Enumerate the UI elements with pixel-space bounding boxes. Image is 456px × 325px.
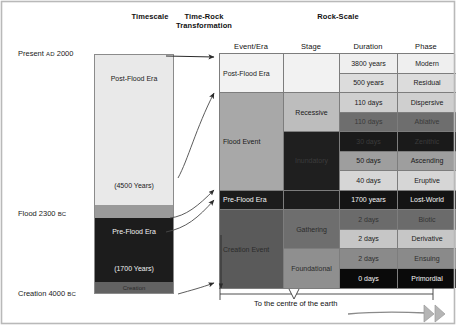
phase-cell-11: Primordial [398, 269, 456, 289]
duration-cell-11-label: 0 days [358, 274, 379, 283]
duration-cell-8: 2 days [340, 210, 398, 230]
label-flood-2300-bc: Flood 2300 BC [18, 209, 66, 218]
event-cell-post-flood-era-label: Post-Flood Era [223, 69, 270, 78]
event-cell-pre-flood-era: Pre-Flood Era [220, 191, 284, 211]
phase-cell-8: Biotic [398, 210, 456, 230]
stage-cell-recessive: Recessive [284, 93, 340, 132]
stage-cell-inundatory: Inundatory [284, 132, 340, 191]
phase-cell-9: Derivative [398, 230, 456, 250]
stage-cell-gathering-label: Gathering [296, 225, 327, 234]
table-header-event-era: Event/Era [219, 42, 283, 51]
phase-cell-6-label: Eruptive [414, 176, 440, 185]
event-cell-creation-event-label: Creation Event [223, 245, 269, 254]
phase-cell-8-label: Biotic [418, 215, 435, 224]
transform-arrow-2 [178, 93, 214, 178]
table-header-phase: Phase [397, 42, 455, 51]
stage-cell-gathering: Gathering [284, 210, 340, 249]
footer-to-centre-of-earth: To the centre of the earth [254, 299, 337, 308]
duration-cell-10: 2 days [340, 249, 398, 269]
duration-cell-1-label: 500 years [353, 78, 384, 87]
stage-cell-inundatory-label: Inundatory [295, 156, 328, 165]
chevron-right-icon-1 [424, 305, 434, 322]
event-cell-pre-flood-era-label: Pre-Flood Era [223, 195, 267, 204]
header-time-rock-line1: Time-Rock [184, 12, 223, 21]
phase-cell-10: Ensuing [398, 249, 456, 269]
phase-cell-3: Ablative [398, 113, 456, 133]
duration-cell-5: 50 days [340, 152, 398, 172]
duration-cell-4: 30 days [340, 132, 398, 152]
phase-cell-6: Eruptive [398, 171, 456, 191]
duration-cell-11: 0 days [340, 269, 398, 289]
timescale-creation-label: Creation [95, 283, 173, 294]
duration-cell-5-label: 50 days [356, 156, 381, 165]
phase-cell-2: Dispersive [398, 93, 456, 113]
phase-cell-3-label: Ablative [415, 117, 440, 126]
timescale-post-flood-duration: (4500 Years) [95, 180, 173, 191]
label-flood-text: Flood 2300 [18, 209, 58, 218]
label-creation-text: Creation 4000 [18, 289, 67, 298]
duration-cell-3-label: 110 days [355, 117, 383, 126]
stage-cell-blank [284, 54, 340, 93]
transform-arrow-3 [170, 190, 214, 218]
header-time-rock-transformation: Time-Rock Transformation [158, 12, 250, 30]
stage-cell-blank [284, 191, 340, 211]
phase-cell-1: Residual [398, 74, 456, 94]
transform-arrow-5 [178, 283, 214, 294]
label-flood-era: BC [58, 211, 67, 217]
phase-cell-9-label: Derivative [411, 234, 442, 243]
phase-cell-5-label: Ascending [411, 156, 444, 165]
stage-cell-recessive-label: Recessive [295, 108, 327, 117]
stage-cell-foundational-label: Foundational [291, 264, 331, 273]
duration-cell-3: 110 days [340, 113, 398, 133]
phase-cell-1-label: Residual [413, 78, 440, 87]
phase-cell-11-label: Primordial [411, 274, 443, 283]
duration-cell-2: 110 days [340, 93, 398, 113]
duration-cell-0: 3800 years [340, 54, 398, 74]
timescale-pre-flood-duration: (1700 Years) [95, 263, 173, 274]
duration-cell-7: 1700 years [340, 191, 398, 211]
diagram-canvas: Timescale Time-Rock Transformation Rock-… [0, 0, 456, 325]
header-rock-scale: Rock-Scale [290, 12, 386, 21]
event-cell-creation-event: Creation Event [220, 210, 284, 288]
table-header-stage: Stage [283, 42, 339, 51]
foundational-pointer [289, 289, 299, 299]
duration-cell-1: 500 years [340, 74, 398, 94]
duration-cell-2-label: 110 days [355, 98, 383, 107]
phase-cell-7-label: Lost-World [410, 195, 444, 204]
timescale-post-flood-label: Post-Flood Era [95, 73, 173, 84]
event-cell-post-flood-era: Post-Flood Era [220, 54, 284, 93]
timescale-segment-flood-band [95, 205, 173, 218]
duration-cell-4-label: 30 days [356, 137, 381, 146]
duration-cell-9-label: 2 days [358, 234, 379, 243]
timescale-segment-creation-band: Creation [95, 282, 173, 293]
timescale-bar: Post-Flood Era (4500 Years) Pre-Flood Er… [94, 54, 174, 294]
label-present-year: 2000 [55, 49, 74, 58]
phase-cell-7: Lost-World [398, 191, 456, 211]
timescale-segment-post-flood-era: Post-Flood Era (4500 Years) [95, 55, 173, 205]
phase-cell-2-label: Dispersive [411, 98, 444, 107]
label-present-ad-2000: Present AD 2000 [18, 49, 73, 58]
phase-cell-10-label: Ensuing [414, 254, 439, 263]
label-creation-4000-bc: Creation 4000 BC [18, 289, 76, 298]
timescale-segment-pre-flood-era: Pre-Flood Era (1700 Years) [95, 218, 173, 282]
header-time-rock-line2: Transformation [176, 21, 232, 30]
phase-cell-4: Zenithic [398, 132, 456, 152]
label-present-text: Present [18, 49, 46, 58]
phase-cell-0-label: Modern [415, 59, 439, 68]
chevron-right-icon-2 [435, 305, 445, 322]
event-cell-flood-event-label: Flood Event [223, 137, 260, 146]
phase-cell-4-label: Zenithic [415, 137, 440, 146]
duration-cell-9: 2 days [340, 230, 398, 250]
event-cell-flood-event: Flood Event [220, 93, 284, 191]
duration-cell-6-label: 40 days [356, 176, 381, 185]
rock-scale-table: Post-Flood EraFlood EventPre-Flood EraCr… [219, 53, 455, 289]
timescale-pre-flood-label: Pre-Flood Era [95, 226, 173, 237]
table-header-duration: Duration [339, 42, 397, 51]
duration-cell-0-label: 3800 years [351, 59, 386, 68]
duration-cell-10-label: 2 days [358, 254, 379, 263]
phase-cell-0: Modern [398, 54, 456, 74]
duration-cell-7-label: 1700 years [351, 195, 386, 204]
trailing-line [348, 312, 426, 314]
stage-cell-foundational: Foundational [284, 249, 340, 288]
phase-cell-5: Ascending [398, 152, 456, 172]
